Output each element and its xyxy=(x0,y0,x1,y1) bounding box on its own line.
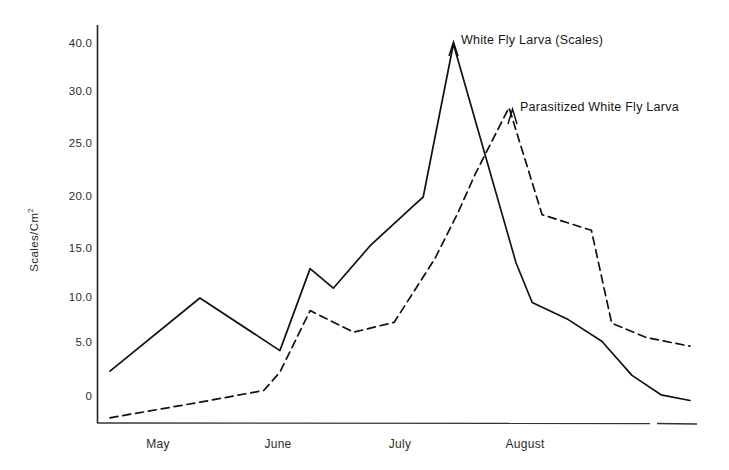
y-axis-title: Scales/Cm2 xyxy=(26,208,40,272)
chart-figure: 40.0 30.0 25.0 20.0 15.0 10.0 5.0 0 Scal… xyxy=(0,0,729,470)
series-line-parasitized-white-fly-larva xyxy=(110,108,690,418)
x-tick-label-july: July xyxy=(370,437,430,451)
y-tick-label-20: 20.0 xyxy=(52,190,92,202)
x-tick-label-may: May xyxy=(128,437,188,451)
annotation-caret-icon-series-0 xyxy=(449,42,458,56)
x-axis-line-segment-2 xyxy=(657,424,697,425)
y-tick-label-40: 40.0 xyxy=(52,37,92,49)
y-axis-title-exponent: 2 xyxy=(26,208,35,213)
y-axis-title-text: Scales/Cm xyxy=(28,213,40,272)
y-tick-label-5: 5.0 xyxy=(52,336,92,348)
y-tick-label-15: 15.0 xyxy=(52,242,92,254)
chart-canvas xyxy=(0,0,729,470)
x-tick-label-june: June xyxy=(248,437,308,451)
y-tick-label-25: 25.0 xyxy=(52,137,92,149)
y-tick-label-10: 10.0 xyxy=(52,291,92,303)
x-tick-label-august: August xyxy=(495,437,555,451)
y-tick-label-0: 0 xyxy=(52,390,92,402)
x-axis-line xyxy=(97,423,650,424)
series-label-white-fly-larva: White Fly Larva (Scales) xyxy=(461,33,603,47)
series-label-parasitized-white-fly-larva: Parasitized White Fly Larva xyxy=(520,100,679,114)
y-tick-label-30: 30.0 xyxy=(52,85,92,97)
series-line-white-fly-larva xyxy=(110,44,690,401)
